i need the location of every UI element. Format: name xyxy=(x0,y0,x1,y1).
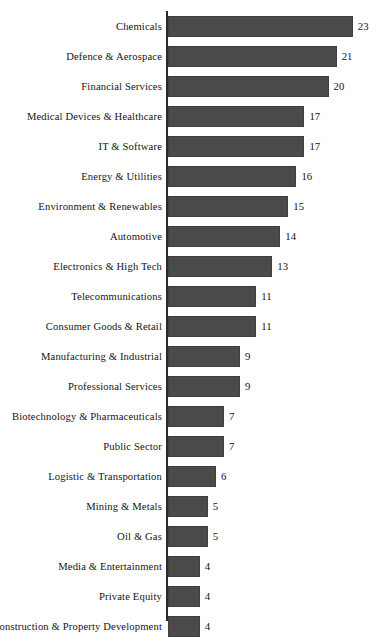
bar-value-label: 21 xyxy=(342,46,353,67)
category-label: Chemicals xyxy=(116,16,162,37)
category-label: Defence & Aerospace xyxy=(66,46,162,67)
category-label: Manufacturing & Industrial xyxy=(41,346,162,367)
bar xyxy=(168,76,329,97)
bar-row: Media & Entertainment4 xyxy=(0,556,381,586)
bar-track xyxy=(168,226,281,247)
bar-row: Defence & Aerospace21 xyxy=(0,46,381,76)
bar xyxy=(168,136,305,157)
bar-row: Mining & Metals5 xyxy=(0,496,381,526)
category-label: Logistic & Transportation xyxy=(48,466,162,487)
bar xyxy=(168,526,208,547)
bar-value-label: 14 xyxy=(285,226,296,247)
bar-row: Private Equity4 xyxy=(0,586,381,616)
category-label: Construction & Property Development xyxy=(0,616,162,637)
bar-value-label: 4 xyxy=(205,616,210,637)
bar-track xyxy=(168,556,200,577)
bar xyxy=(168,376,240,397)
bar-row: IT & Software17 xyxy=(0,136,381,166)
bar xyxy=(168,616,200,637)
category-label: Mining & Metals xyxy=(86,496,162,517)
bar-value-label: 17 xyxy=(309,136,320,157)
category-label: Energy & Utilities xyxy=(81,166,162,187)
category-label: Professional Services xyxy=(68,376,162,397)
category-label: IT & Software xyxy=(98,136,162,157)
bar-value-label: 7 xyxy=(229,406,234,427)
bar-track xyxy=(168,466,216,487)
bar-row: Logistic & Transportation6 xyxy=(0,466,381,496)
bar-track xyxy=(168,376,240,397)
category-label: Media & Entertainment xyxy=(58,556,162,577)
bar-track xyxy=(168,46,337,67)
bar xyxy=(168,316,257,337)
bar xyxy=(168,256,273,277)
bar-value-label: 13 xyxy=(277,256,288,277)
bar xyxy=(168,496,208,517)
category-label: Oil & Gas xyxy=(117,526,162,547)
bar-value-label: 7 xyxy=(229,436,234,457)
bar-row: Environment & Renewables15 xyxy=(0,196,381,226)
bar xyxy=(168,436,224,457)
bar-value-label: 6 xyxy=(221,466,226,487)
bar-value-label: 11 xyxy=(261,286,271,307)
category-label: Financial Services xyxy=(81,76,162,97)
bar-row: Electronics & High Tech13 xyxy=(0,256,381,286)
bar-track xyxy=(168,436,224,457)
bar-track xyxy=(168,76,329,97)
bar-track xyxy=(168,316,257,337)
bar-chart: Chemicals23Defence & Aerospace21Financia… xyxy=(0,0,381,642)
bar-row: Chemicals23 xyxy=(0,16,381,46)
bar-track xyxy=(168,346,240,367)
bar-row: Energy & Utilities16 xyxy=(0,166,381,196)
bar-track xyxy=(168,406,224,427)
bar-value-label: 9 xyxy=(245,376,250,397)
bar-track xyxy=(168,286,257,307)
plot-area: Chemicals23Defence & Aerospace21Financia… xyxy=(0,16,381,642)
bar-row: Professional Services9 xyxy=(0,376,381,406)
bar-row: Oil & Gas5 xyxy=(0,526,381,556)
bar-track xyxy=(168,106,305,127)
bar xyxy=(168,106,305,127)
category-label: Biotechnology & Pharmaceuticals xyxy=(12,406,162,427)
bar-track xyxy=(168,166,297,187)
bar-row: Telecommunications11 xyxy=(0,286,381,316)
bar xyxy=(168,466,216,487)
category-label: Consumer Goods & Retail xyxy=(46,316,162,337)
bar-value-label: 20 xyxy=(334,76,345,97)
bar-track xyxy=(168,616,200,637)
category-label: Medical Devices & Healthcare xyxy=(27,106,162,127)
bar xyxy=(168,346,240,367)
bar-row: Public Sector7 xyxy=(0,436,381,466)
bar-row: Automotive14 xyxy=(0,226,381,256)
bar-value-label: 4 xyxy=(205,586,210,607)
bar xyxy=(168,166,297,187)
category-label: Environment & Renewables xyxy=(38,196,162,217)
bar-row: Manufacturing & Industrial9 xyxy=(0,346,381,376)
bar xyxy=(168,586,200,607)
bar-value-label: 15 xyxy=(293,196,304,217)
category-label: Telecommunications xyxy=(71,286,162,307)
bar-track xyxy=(168,256,273,277)
bar xyxy=(168,286,257,307)
bar-value-label: 23 xyxy=(358,16,369,37)
category-label: Private Equity xyxy=(99,586,162,607)
bar-value-label: 4 xyxy=(205,556,210,577)
bar-row: Financial Services20 xyxy=(0,76,381,106)
bar-track xyxy=(168,586,200,607)
bar-value-label: 11 xyxy=(261,316,271,337)
bar-value-label: 5 xyxy=(213,496,218,517)
bar-row: Consumer Goods & Retail11 xyxy=(0,316,381,346)
bar-row: Construction & Property Development4 xyxy=(0,616,381,642)
bar-track xyxy=(168,526,208,547)
bar xyxy=(168,226,281,247)
bar-track xyxy=(168,136,305,157)
bar-row: Medical Devices & Healthcare17 xyxy=(0,106,381,136)
category-label: Public Sector xyxy=(103,436,162,457)
category-label: Electronics & High Tech xyxy=(53,256,162,277)
bar-value-label: 17 xyxy=(309,106,320,127)
bar-track xyxy=(168,496,208,517)
bar xyxy=(168,46,337,67)
bar-value-label: 16 xyxy=(301,166,312,187)
bar xyxy=(168,556,200,577)
category-label: Automotive xyxy=(110,226,162,247)
bar-track xyxy=(168,16,353,37)
